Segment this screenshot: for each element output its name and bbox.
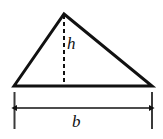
height-label: h [67, 35, 76, 52]
base-label: b [72, 113, 81, 130]
figure-canvas [0, 0, 163, 139]
triangle-area-diagram: h b [0, 0, 163, 139]
triangle-outline [14, 14, 152, 86]
